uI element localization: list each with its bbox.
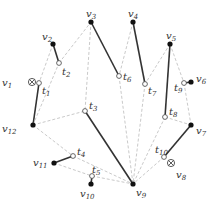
node-v11 bbox=[51, 160, 56, 165]
label-t8: t8 bbox=[169, 106, 178, 119]
edge-v5-t9 bbox=[170, 44, 184, 83]
hollow-dot-icon bbox=[182, 81, 187, 86]
hollow-dot-icon bbox=[57, 61, 62, 66]
label-v9: v9 bbox=[136, 187, 147, 200]
edge-v2-t2 bbox=[53, 44, 59, 63]
edge-v7-t10 bbox=[164, 125, 191, 157]
node-t7 bbox=[143, 82, 148, 87]
nodes-layer bbox=[28, 19, 193, 186]
edge-v12-t4 bbox=[33, 125, 73, 156]
node-t8 bbox=[163, 115, 168, 120]
node-t3 bbox=[83, 109, 88, 114]
node-v1-otimes-icon bbox=[28, 78, 35, 85]
edge-t7-v9 bbox=[133, 84, 145, 184]
labels-layer: v1v2v3v4v5v6v7v8v9v10v11v12t1t2t3t4t5t6t… bbox=[2, 8, 207, 201]
label-t10: t10 bbox=[155, 144, 168, 157]
label-t7: t7 bbox=[148, 85, 157, 98]
node-v10 bbox=[88, 181, 93, 186]
filled-dot-icon bbox=[51, 160, 56, 165]
label-v11: v11 bbox=[33, 157, 48, 170]
hollow-dot-icon bbox=[143, 82, 148, 87]
label-v6: v6 bbox=[196, 73, 207, 86]
hollow-dot-icon bbox=[71, 154, 76, 159]
label-v2: v2 bbox=[42, 31, 53, 44]
edge-t9-v7 bbox=[184, 83, 191, 125]
graph-diagram: v1v2v3v4v5v6v7v8v9v10v11v12t1t2t3t4t5t6t… bbox=[0, 0, 218, 208]
filled-dot-icon bbox=[188, 122, 193, 127]
edge-t8-v7 bbox=[165, 117, 191, 125]
edge-v2-t1 bbox=[39, 44, 53, 83]
edges-layer bbox=[33, 22, 191, 184]
edge-v4-t6 bbox=[119, 22, 133, 76]
edge-t10-v9 bbox=[133, 157, 164, 184]
node-v6 bbox=[188, 79, 193, 84]
hollow-dot-icon bbox=[37, 81, 42, 86]
filled-dot-icon bbox=[30, 122, 35, 127]
edge-t5-v9 bbox=[92, 176, 133, 184]
label-v7: v7 bbox=[196, 125, 207, 138]
label-v10: v10 bbox=[80, 188, 95, 201]
node-t1 bbox=[37, 81, 42, 86]
label-v3: v3 bbox=[86, 8, 97, 21]
label-v1: v1 bbox=[2, 77, 12, 90]
node-v9 bbox=[130, 181, 135, 186]
label-t2: t2 bbox=[62, 66, 71, 79]
hollow-dot-icon bbox=[117, 74, 122, 79]
edge-v11-t5 bbox=[54, 163, 92, 176]
label-t3: t3 bbox=[89, 100, 98, 113]
filled-dot-icon bbox=[130, 181, 135, 186]
hollow-dot-icon bbox=[163, 115, 168, 120]
edge-t6-v9 bbox=[119, 76, 133, 184]
edge-v4-t7 bbox=[133, 22, 145, 84]
edge-v3-t6 bbox=[91, 22, 119, 76]
node-t4 bbox=[71, 154, 76, 159]
edge-v11-t4 bbox=[54, 156, 73, 163]
edge-t2-v3 bbox=[59, 22, 91, 63]
edge-v12-t3 bbox=[33, 111, 85, 125]
label-t6: t6 bbox=[123, 71, 132, 84]
node-t6 bbox=[117, 74, 122, 79]
label-v4: v4 bbox=[128, 8, 138, 21]
filled-dot-icon bbox=[188, 79, 193, 84]
filled-dot-icon bbox=[88, 181, 93, 186]
edge-v5-t7 bbox=[145, 44, 170, 84]
hollow-dot-icon bbox=[83, 109, 88, 114]
node-v8-otimes-icon bbox=[167, 159, 174, 166]
node-t9 bbox=[182, 81, 187, 86]
label-v5: v5 bbox=[166, 30, 177, 43]
edge-v3-t3 bbox=[85, 22, 91, 111]
node-v7 bbox=[188, 122, 193, 127]
node-t2 bbox=[57, 61, 62, 66]
label-v12: v12 bbox=[2, 123, 17, 136]
label-t4: t4 bbox=[77, 146, 86, 159]
node-v12 bbox=[30, 122, 35, 127]
label-v8: v8 bbox=[176, 169, 187, 182]
